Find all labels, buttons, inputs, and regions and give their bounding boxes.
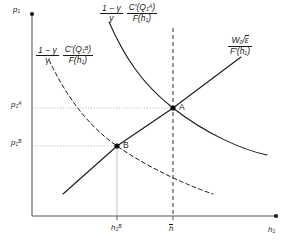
dashed-curve-Q: Q — [75, 44, 82, 54]
solid-curve-gamma-fraction: 1 − γ γ — [100, 4, 123, 23]
solid-curve-F: F(h — [133, 13, 146, 23]
point-b-text: B — [123, 140, 129, 150]
x-axis-arrow-cap — [274, 214, 278, 218]
solid-curve-Q-sup: A — [149, 3, 153, 9]
dashed-curve-main-fraction: C′(Q1B) F(h1) — [63, 45, 94, 65]
y-axis-arrow-cap — [30, 12, 34, 16]
solid-curve-gamma-den: γ — [100, 14, 123, 23]
dashed-curve-F: F(h — [69, 55, 82, 65]
x-tick-h1B-sup: B — [118, 224, 121, 229]
x-axis-label-sub: 1 — [272, 229, 275, 234]
y-axis-label: p1 — [13, 6, 20, 15]
dashed-demand-curve — [49, 60, 213, 194]
dashed-curve-Q-sup: B — [85, 45, 89, 51]
supply-curve-label: W0/ε F′(h1) — [228, 35, 252, 56]
supply-curve-F-close: ) — [247, 46, 250, 56]
supply-curve-W: W — [232, 35, 240, 45]
point-a-text: A — [179, 102, 185, 112]
y-tick-label-p1B: p1B — [11, 139, 22, 148]
supply-curve-den: F′(h1) — [228, 47, 252, 57]
solid-curve-Q: Q — [139, 2, 146, 12]
economics-figure: p1 h1 p1A p1B h1B h A B 1 − γ γ C′(Q1A) … — [0, 0, 291, 247]
solid-curve-F-close: ) — [148, 13, 151, 23]
y-tick-p1B-sup: B — [18, 139, 21, 144]
supply-curve — [63, 57, 241, 194]
y-axis-label-sub: 1 — [17, 9, 20, 14]
solid-curve-main-den: F(h1) — [127, 14, 158, 24]
solid-curve-prime: ′ — [135, 2, 137, 12]
supply-curve-epsilon: ε — [245, 35, 249, 45]
x-axis-label: h1 — [268, 226, 275, 235]
point-a-marker — [170, 105, 175, 110]
x-tick-label-hbar: h — [169, 224, 173, 233]
supply-curve-fraction: W0/ε F′(h1) — [228, 35, 252, 56]
y-tick-p1A-sup: A — [18, 101, 21, 106]
x-tick-hbar-base: h — [169, 224, 173, 233]
dashed-demand-curve-label: 1 − γ γ C′(Q1B) F(h1) — [36, 45, 93, 65]
dashed-curve-gamma-fraction: 1 − γ γ — [36, 46, 59, 65]
point-b-marker — [114, 143, 119, 148]
solid-demand-curve-label: 1 − γ γ C′(Q1A) F(h1) — [100, 3, 157, 23]
solid-curve-main-fraction: C′(Q1A) F(h1) — [127, 3, 158, 23]
point-a-label: A — [179, 103, 185, 112]
dashed-curve-main-den: F(h1) — [63, 56, 94, 66]
y-tick-label-p1A: p1A — [11, 101, 22, 110]
point-b-label: B — [123, 141, 129, 150]
dashed-curve-prime: ′ — [71, 44, 73, 54]
dashed-curve-F-close: ) — [84, 55, 87, 65]
dashed-curve-gamma-den: γ — [36, 56, 59, 65]
x-tick-label-h1B: h1B — [111, 224, 122, 233]
